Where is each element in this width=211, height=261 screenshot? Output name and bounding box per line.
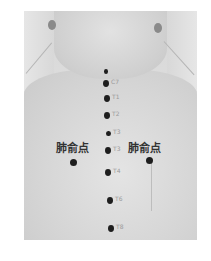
spine-marker-dot: [104, 112, 110, 119]
spine-marker-dot: [103, 80, 109, 87]
right-ear: [154, 23, 162, 33]
acupoint-label-right: 肺俞点: [128, 139, 161, 155]
vertebra-label: C7: [111, 78, 119, 85]
vertebra-label: T3: [113, 128, 120, 135]
spine-marker-dot: [104, 95, 110, 102]
spine-marker-dot: [106, 131, 111, 137]
spine-marker-dot: [105, 169, 111, 176]
back-torso: [24, 69, 197, 240]
vertebra-label: T1: [112, 93, 119, 100]
neck: [54, 11, 167, 79]
left-ear: [48, 20, 56, 30]
spine-marker-dot: [108, 225, 114, 232]
acupoint-label-left: 肺俞点: [56, 139, 89, 155]
back-crease: [151, 161, 152, 211]
vertebra-label: T4: [113, 167, 120, 174]
acupoint-dot-left: [70, 159, 77, 166]
back-photo: [24, 11, 197, 240]
spine-marker-dot: [105, 147, 111, 154]
vertebra-label: T8: [116, 223, 123, 230]
acupoint-dot-right: [146, 157, 153, 164]
spine-marker-dot: [107, 197, 113, 204]
spine-marker-dot: [104, 69, 108, 74]
vertebra-label: T3: [113, 145, 120, 152]
vertebra-label: T2: [112, 110, 119, 117]
vertebra-label: T6: [115, 195, 122, 202]
